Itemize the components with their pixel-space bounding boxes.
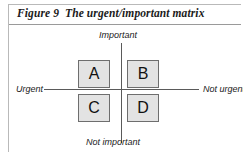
quadrant-label-c: C [88, 100, 100, 116]
figure-title: Figure 9The urgent/important matrix [17, 7, 204, 19]
axis-label-not-important: Not important [86, 137, 140, 147]
urgent-important-matrix: A B C D Important Not important Urgent N… [0, 25, 243, 163]
frame-border-top [8, 4, 241, 5]
quadrant-label-b: B [138, 66, 149, 82]
quadrant-box-a: A [78, 60, 110, 88]
figure-frame: Figure 9The urgent/important matrix A B … [0, 0, 243, 163]
quadrant-box-d: D [127, 94, 159, 122]
horizontal-axis-line [44, 89, 199, 90]
vertical-axis-line [121, 43, 122, 143]
quadrant-box-c: C [78, 94, 110, 122]
quadrant-label-d: D [137, 100, 149, 116]
axis-label-urgent: Urgent [16, 84, 43, 94]
quadrant-label-a: A [89, 66, 100, 82]
axis-label-important: Important [99, 30, 137, 40]
figure-number: Figure 9 [17, 7, 59, 19]
axis-label-not-urgent: Not urgent [203, 84, 243, 94]
quadrant-box-b: B [127, 60, 159, 88]
figure-title-text: The urgent/important matrix [65, 7, 204, 19]
